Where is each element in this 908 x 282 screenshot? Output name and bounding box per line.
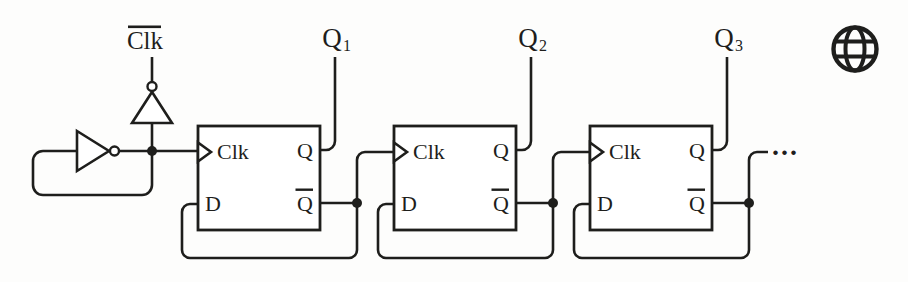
globe-icon bbox=[834, 28, 877, 71]
clock-oscillator: Clk bbox=[33, 26, 198, 196]
ff1-junction-dot bbox=[352, 198, 362, 208]
flip-flop-3: Clk D Q Q Q 3 bbox=[574, 23, 768, 258]
ff1-q-output-wire bbox=[320, 57, 335, 150]
ff2-q-port-label: Q bbox=[493, 138, 509, 163]
ripple-counter-diagram: Clk Clk D Q Q Q 1 Clk D Q bbox=[0, 0, 908, 282]
ff2-output-label: Q bbox=[518, 23, 538, 53]
ff1-q-port-label: Q bbox=[297, 138, 313, 163]
circuit-figure: Clk Clk D Q Q Q 1 Clk D Q bbox=[0, 0, 908, 282]
ff3-clk-port-label: Clk bbox=[609, 139, 641, 164]
ff3-qbar-port-label: Q bbox=[689, 191, 705, 216]
ff2-clk-port-label: Clk bbox=[413, 139, 445, 164]
ff1-output-subscript: 1 bbox=[343, 37, 351, 54]
ff3-d-port-label: D bbox=[597, 191, 613, 216]
ff2-junction-dot bbox=[548, 198, 558, 208]
ff1-qbar-port-label: Q bbox=[297, 191, 313, 216]
ff3-output-label: Q bbox=[714, 23, 734, 53]
ff3-junction-dot bbox=[744, 198, 754, 208]
inverter-bubble-icon bbox=[110, 147, 119, 156]
ff2-d-port-label: D bbox=[401, 191, 417, 216]
continuation-ellipsis: ... bbox=[772, 130, 799, 161]
ff3-q-output-wire bbox=[712, 57, 727, 150]
ff1-output-label: Q bbox=[322, 23, 342, 53]
flip-flop-1: Clk D Q Q Q 1 bbox=[182, 23, 394, 258]
inverter-up-icon bbox=[132, 92, 172, 123]
ff2-output-subscript: 2 bbox=[539, 37, 547, 54]
ff2-q-output-wire bbox=[516, 57, 531, 150]
flip-flop-2: Clk D Q Q Q 2 bbox=[378, 23, 590, 258]
inverter-up-bubble-icon bbox=[148, 82, 157, 91]
inverter-icon bbox=[77, 131, 109, 171]
ff3-continuation-wire bbox=[749, 152, 768, 203]
ff1-clk-port-label: Clk bbox=[217, 139, 249, 164]
ff3-output-subscript: 3 bbox=[735, 37, 743, 54]
ff2-qbar-port-label: Q bbox=[493, 191, 509, 216]
clock-junction-dot bbox=[147, 146, 157, 156]
ff2-to-ff3-clock-wire bbox=[553, 152, 590, 203]
ff1-to-ff2-clock-wire bbox=[357, 152, 394, 203]
clk-bar-label: Clk bbox=[127, 27, 164, 54]
ff1-d-port-label: D bbox=[205, 191, 221, 216]
ff3-q-port-label: Q bbox=[689, 138, 705, 163]
